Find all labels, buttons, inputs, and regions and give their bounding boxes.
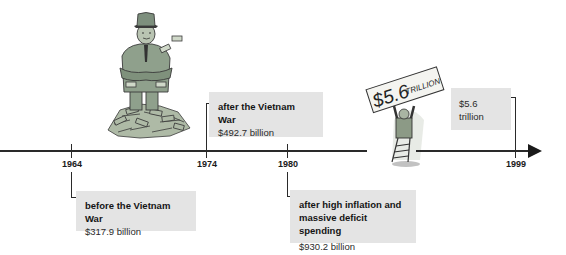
event-box-1999: $5.6 trillion <box>451 88 511 130</box>
year-label-1964: 1964 <box>62 159 82 169</box>
money-pile-illustration <box>100 12 195 140</box>
year-label-1999: 1999 <box>506 159 526 169</box>
timeline-axis-right <box>416 150 530 152</box>
sign-holder-icon: $5.6 TRILLION <box>364 60 446 170</box>
event-box-1964: before the Vietnam War $317.9 billion <box>76 191 196 231</box>
event-title-1964: before the Vietnam War <box>85 199 187 225</box>
year-label-1980: 1980 <box>278 159 298 169</box>
event-value-1964: $317.9 billion <box>85 225 187 238</box>
money-man-icon <box>100 12 195 140</box>
event-value-1980: $930.2 billion <box>299 240 407 253</box>
year-label-1974: 1974 <box>197 159 217 169</box>
event-value-1974: $492.7 billion <box>218 126 314 139</box>
event-title-1974: after the Vietnam War <box>218 100 314 126</box>
event-value-1999: $5.6 trillion <box>459 97 503 123</box>
event-box-1974: after the Vietnam War $492.7 billion <box>209 92 323 137</box>
event-title-1980: after high inflation and massive deficit… <box>299 198 407 237</box>
tick-1964 <box>71 144 72 158</box>
event-box-1980: after high inflation and massive deficit… <box>290 190 416 243</box>
tick-1980 <box>287 144 288 158</box>
trillion-sign-illustration: $5.6 TRILLION <box>364 60 446 170</box>
timeline-axis-left <box>0 150 367 152</box>
timeline-arrow-icon <box>528 144 542 158</box>
